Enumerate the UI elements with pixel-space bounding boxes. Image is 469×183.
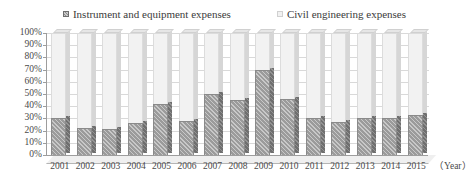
bar-segment-instrument[interactable] xyxy=(331,122,346,155)
stacked-bar[interactable] xyxy=(255,33,270,155)
bar-segment-instrument[interactable] xyxy=(382,118,397,155)
bar-segment-instrument[interactable] xyxy=(408,115,423,155)
y-axis-tick-label: 70% xyxy=(25,65,42,75)
bar-group[interactable] xyxy=(77,33,92,155)
bar-segment-civil[interactable] xyxy=(230,33,245,100)
bar-segment-instrument[interactable] xyxy=(204,94,219,155)
bar-side-instrument xyxy=(117,127,121,153)
bar-group[interactable] xyxy=(408,33,423,155)
bar-segment-instrument[interactable] xyxy=(357,118,372,155)
stacked-bar[interactable] xyxy=(204,33,219,155)
bar-group[interactable] xyxy=(102,33,117,155)
y-axis-tick-label: 40% xyxy=(25,101,42,111)
y-axis-tick-label: 50% xyxy=(25,89,42,99)
bar-segment-civil[interactable] xyxy=(128,33,143,123)
bar-segment-civil[interactable] xyxy=(179,33,194,121)
y-axis-tick-label: 20% xyxy=(25,126,42,136)
bar-segment-instrument[interactable] xyxy=(255,70,270,155)
bar-side-civil xyxy=(194,31,198,119)
bar-group[interactable] xyxy=(230,33,245,155)
bar-segment-civil[interactable] xyxy=(280,33,295,99)
stacked-bar[interactable] xyxy=(230,33,245,155)
x-axis-tick-label: 2006 xyxy=(178,160,197,172)
bar-group[interactable] xyxy=(357,33,372,155)
bar-segment-instrument[interactable] xyxy=(230,100,245,155)
bar-segment-civil[interactable] xyxy=(382,33,397,118)
bar-side-instrument xyxy=(295,97,299,153)
bar-segment-civil[interactable] xyxy=(153,33,168,104)
bar-group[interactable] xyxy=(280,33,295,155)
x-axis-tick-label: 2012 xyxy=(330,160,349,172)
bar-group[interactable] xyxy=(204,33,219,155)
legend-swatch-instrument-icon xyxy=(63,11,69,17)
bar-segment-instrument[interactable] xyxy=(179,121,194,155)
bar-group[interactable] xyxy=(179,33,194,155)
x-axis-tick-label: 2009 xyxy=(254,160,273,172)
stacked-bar[interactable] xyxy=(331,33,346,155)
bar-side-civil xyxy=(168,31,172,102)
stacked-bar[interactable] xyxy=(102,33,117,155)
bar-segment-instrument[interactable] xyxy=(153,104,168,155)
y-axis-tick-label: 30% xyxy=(25,114,42,124)
bar-segment-civil[interactable] xyxy=(77,33,92,128)
bar-side-instrument xyxy=(372,116,376,153)
x-axis-tick-label: 2002 xyxy=(76,160,95,172)
legend-item-civil: Civil engineering expenses xyxy=(277,8,406,20)
bar-side-instrument xyxy=(143,121,147,153)
bar-group[interactable] xyxy=(306,33,321,155)
bar-side-civil xyxy=(321,31,325,116)
x-axis-tick-label: 2001 xyxy=(50,160,69,172)
bar-side-civil xyxy=(245,31,249,98)
bar-side-civil xyxy=(423,31,427,113)
stacked-bar[interactable] xyxy=(306,33,321,155)
stacked-bar[interactable] xyxy=(357,33,372,155)
stacked-bar[interactable] xyxy=(51,33,66,155)
bar-side-instrument xyxy=(346,120,350,153)
bar-segment-instrument[interactable] xyxy=(77,128,92,155)
bar-segment-civil[interactable] xyxy=(306,33,321,118)
bar-segment-instrument[interactable] xyxy=(280,99,295,155)
y-axis-tick-label: 10% xyxy=(25,138,42,148)
x-axis-tick-label: 2005 xyxy=(152,160,171,172)
x-axis-tick-label: 2010 xyxy=(279,160,298,172)
legend-item-instrument: Instrument and equipment expenses xyxy=(63,8,231,20)
bar-segment-civil[interactable] xyxy=(357,33,372,118)
bar-side-instrument xyxy=(270,68,274,153)
bar-side-civil xyxy=(295,31,299,97)
y-axis-tick-label: 60% xyxy=(25,77,42,87)
bar-group[interactable] xyxy=(128,33,143,155)
stacked-bar[interactable] xyxy=(382,33,397,155)
bar-group[interactable] xyxy=(331,33,346,155)
stacked-bar[interactable] xyxy=(153,33,168,155)
bar-side-instrument xyxy=(168,102,172,153)
bar-segment-instrument[interactable] xyxy=(306,118,321,155)
x-axis-labels: 2001200220032004200520062007200820092010… xyxy=(47,160,429,174)
legend-label-civil: Civil engineering expenses xyxy=(287,8,406,20)
stacked-bar[interactable] xyxy=(280,33,295,155)
x-axis-tick-label: 2013 xyxy=(356,160,375,172)
legend-swatch-civil-icon xyxy=(277,11,283,17)
bar-side-instrument xyxy=(92,126,96,153)
stacked-bar[interactable] xyxy=(179,33,194,155)
bar-side-instrument xyxy=(194,119,198,153)
bar-group[interactable] xyxy=(382,33,397,155)
bar-side-instrument xyxy=(397,116,401,153)
bar-segment-civil[interactable] xyxy=(255,33,270,70)
bar-side-instrument xyxy=(321,116,325,153)
bar-group[interactable] xyxy=(255,33,270,155)
stacked-bar[interactable] xyxy=(408,33,423,155)
bar-segment-civil[interactable] xyxy=(408,33,423,115)
bar-segment-civil[interactable] xyxy=(102,33,117,129)
bar-segment-instrument[interactable] xyxy=(51,118,66,155)
bar-group[interactable] xyxy=(153,33,168,155)
bar-side-instrument xyxy=(245,98,249,153)
stacked-bar[interactable] xyxy=(77,33,92,155)
bar-segment-civil[interactable] xyxy=(331,33,346,122)
bar-segment-civil[interactable] xyxy=(51,33,66,118)
bar-segment-civil[interactable] xyxy=(204,33,219,94)
bar-side-civil xyxy=(92,31,96,126)
bar-segment-instrument[interactable] xyxy=(102,129,117,155)
stacked-bar[interactable] xyxy=(128,33,143,155)
bar-group[interactable] xyxy=(51,33,66,155)
bar-segment-instrument[interactable] xyxy=(128,123,143,155)
